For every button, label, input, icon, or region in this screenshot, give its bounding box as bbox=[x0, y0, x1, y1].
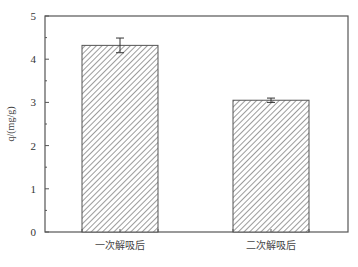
bar-chart: 012345 一次解吸后二次解吸后 q/(mg/g) bbox=[0, 0, 358, 267]
bar bbox=[233, 100, 309, 232]
x-tick-label: 二次解吸后 bbox=[246, 239, 296, 251]
bar bbox=[82, 45, 158, 232]
y-tick-label: 3 bbox=[31, 96, 37, 108]
y-tick-label: 4 bbox=[31, 53, 37, 65]
y-axis: 012345 bbox=[31, 10, 50, 238]
y-tick-label: 0 bbox=[31, 226, 37, 238]
x-tick-label: 一次解吸后 bbox=[95, 239, 145, 251]
y-tick-label: 5 bbox=[31, 10, 37, 22]
y-tick-label: 1 bbox=[31, 183, 37, 195]
bars bbox=[82, 38, 309, 232]
y-axis-label: q/(mg/g) bbox=[5, 107, 17, 142]
y-tick-label: 2 bbox=[31, 140, 37, 152]
